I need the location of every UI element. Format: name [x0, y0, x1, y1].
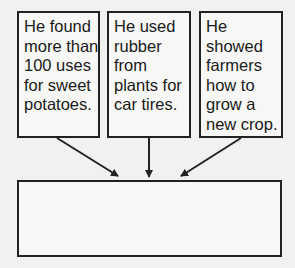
answer-box[interactable]	[17, 180, 282, 257]
arrow-icon	[57, 138, 118, 176]
arrow-icon	[181, 138, 241, 176]
